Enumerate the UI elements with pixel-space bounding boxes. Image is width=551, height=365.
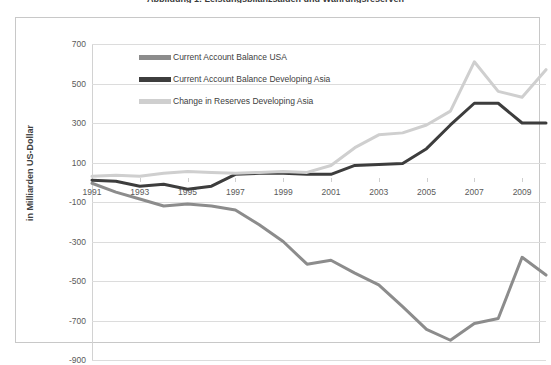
chart-legend: Current Account Balance USACurrent Accou…	[139, 46, 330, 112]
series-line	[92, 103, 546, 189]
legend-item[interactable]: Current Account Balance Developing Asia	[139, 68, 330, 90]
legend-item-label: Current Account Balance Developing Asia	[173, 74, 330, 84]
y-tick-label: -500	[69, 276, 86, 286]
y-tick-label: -100	[69, 197, 86, 207]
legend-item[interactable]: Current Account Balance USA	[139, 46, 330, 68]
legend-item[interactable]: Change in Reserves Developing Asia	[139, 90, 330, 112]
chart-figure-frame: in Milliarden US-Dollar 700500300100-100…	[15, 17, 540, 343]
y-axis-title: in Milliarden US-Dollar	[25, 93, 35, 253]
legend-item-label: Change in Reserves Developing Asia	[173, 96, 313, 106]
legend-swatch-icon	[139, 77, 171, 82]
y-tick-label: 500	[72, 79, 86, 89]
chart-title: Abbildung 1: Leistungsbilanzsalden und W…	[0, 0, 551, 3]
y-tick-label: 300	[72, 118, 86, 128]
series-line	[92, 183, 546, 340]
legend-swatch-icon	[139, 99, 171, 104]
gridline	[92, 360, 546, 361]
legend-item-label: Current Account Balance USA	[173, 52, 287, 62]
y-tick-label: 100	[72, 158, 86, 168]
y-tick-label: -900	[69, 355, 86, 365]
y-tick-label: 700	[72, 39, 86, 49]
y-tick-label: -300	[69, 237, 86, 247]
y-tick-label: -700	[69, 316, 86, 326]
legend-swatch-icon	[139, 55, 171, 60]
